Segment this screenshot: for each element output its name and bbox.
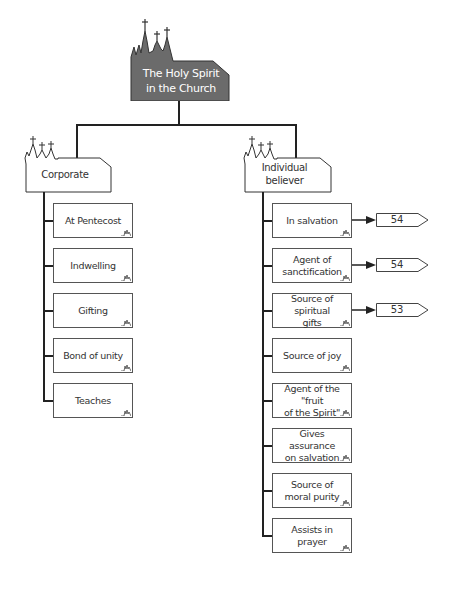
individual-tick — [262, 400, 272, 402]
arrow-right-icon — [352, 304, 376, 316]
branch-corporate: Corporate — [18, 132, 112, 193]
branch-individual-believer: Individual believer — [237, 132, 332, 193]
individual-item-source-of-joy: Source of joy — [272, 338, 352, 373]
branch-label-line-2: believer — [237, 174, 332, 187]
page-number: 54 — [376, 213, 418, 227]
corporate-spine — [43, 192, 45, 401]
individual-tick — [262, 265, 272, 267]
individual-item-in-salvation: In salvation — [272, 203, 352, 238]
item-label: Source of spiritual gifts — [277, 293, 347, 329]
church-silhouette-icon — [18, 132, 112, 193]
title-text: The Holy Spirit in the Church — [133, 66, 229, 96]
branch-label: Corporate — [18, 168, 112, 181]
corporate-item-bond-of-unity: Bond of unity — [53, 338, 133, 373]
branch-bar — [76, 124, 297, 126]
item-label: Bond of unity — [63, 350, 123, 362]
corporate-tick — [43, 400, 53, 402]
individual-tick — [262, 445, 272, 447]
church-mini-icon — [121, 409, 131, 416]
arrow-right-icon — [352, 214, 376, 226]
item-label: Teaches — [75, 395, 111, 407]
item-label-line: Gives assurance — [277, 428, 347, 452]
individual-item-gives-assurance: Gives assurance on salvation — [272, 428, 352, 463]
item-label-line: on salvation — [277, 452, 347, 464]
church-mini-icon — [340, 499, 350, 506]
item-label: Gifting — [78, 305, 108, 317]
item-label-line: gifts — [277, 317, 347, 329]
corporate-item-indwelling: Indwelling — [53, 248, 133, 283]
item-label: Agent of sanctification — [282, 254, 341, 278]
corporate-tick — [43, 265, 53, 267]
corporate-item-at-pentecost: At Pentecost — [53, 203, 133, 238]
individual-tick — [262, 355, 272, 357]
item-label: Source of moral purity — [285, 479, 340, 503]
page-ref-agent-of-sanctification[interactable]: 54 — [376, 258, 429, 272]
item-label: Assists in prayer — [277, 524, 347, 548]
corporate-tick — [43, 355, 53, 357]
item-label: Agent of the "fruit of the Spirit" — [277, 383, 347, 419]
page-ref-source-of-spiritual-gifts[interactable]: 53 — [376, 303, 429, 317]
church-mini-icon — [340, 409, 350, 416]
individual-tick — [262, 310, 272, 312]
church-mini-icon — [121, 319, 131, 326]
title-line-2: in the Church — [133, 81, 229, 96]
item-label: Indwelling — [70, 260, 115, 272]
corporate-item-gifting: Gifting — [53, 293, 133, 328]
branch-label: Individual believer — [237, 161, 332, 187]
page-ref-in-salvation[interactable]: 54 — [376, 213, 429, 227]
arrow-right-icon — [352, 259, 376, 271]
item-label-line: sanctification — [282, 266, 341, 278]
church-mini-icon — [340, 274, 350, 281]
individual-tick — [262, 490, 272, 492]
individual-item-moral-purity: Source of moral purity — [272, 473, 352, 508]
item-label-line: moral purity — [285, 491, 340, 503]
individual-tick — [262, 220, 272, 222]
title-line-1: The Holy Spirit — [133, 66, 229, 81]
item-label: In salvation — [286, 215, 337, 227]
church-mini-icon — [340, 544, 350, 551]
individual-item-fruit-of-the-spirit: Agent of the "fruit of the Spirit" — [272, 383, 352, 418]
item-label-line: Source of spiritual — [277, 293, 347, 317]
church-mini-icon — [340, 364, 350, 371]
item-label-line: Agent of the "fruit — [277, 383, 347, 407]
corporate-item-teaches: Teaches — [53, 383, 133, 418]
page-number: 54 — [376, 258, 418, 272]
individual-spine — [262, 192, 264, 536]
individual-item-source-of-spiritual-gifts: Source of spiritual gifts — [272, 293, 352, 328]
corporate-tick — [43, 220, 53, 222]
church-mini-icon — [121, 274, 131, 281]
branch-label-line-1: Individual — [237, 161, 332, 174]
item-label: At Pentecost — [65, 215, 121, 227]
individual-item-agent-of-sanctification: Agent of sanctification — [272, 248, 352, 283]
page-number: 53 — [376, 303, 418, 317]
title-node: The Holy Spirit in the Church — [133, 63, 229, 101]
church-mini-icon — [340, 319, 350, 326]
church-mini-icon — [121, 364, 131, 371]
corporate-tick — [43, 310, 53, 312]
individual-item-assists-in-prayer: Assists in prayer — [272, 518, 352, 553]
individual-tick — [262, 535, 272, 537]
church-mini-icon — [340, 454, 350, 461]
title-stem — [178, 100, 180, 125]
item-label: Gives assurance on salvation — [277, 428, 347, 464]
item-label-line: Source of — [285, 479, 340, 491]
item-label: Source of joy — [283, 350, 341, 362]
church-mini-icon — [340, 229, 350, 236]
item-label-line: of the Spirit" — [277, 407, 347, 419]
item-label-line: Agent of — [282, 254, 341, 266]
church-mini-icon — [121, 229, 131, 236]
